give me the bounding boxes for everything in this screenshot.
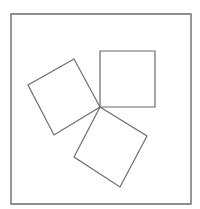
geometry-figure [0, 0, 200, 209]
left-tilted-square [28, 59, 100, 135]
bottom-tilted-square [74, 107, 147, 187]
outer-frame [11, 14, 191, 204]
upright-square [100, 51, 155, 107]
